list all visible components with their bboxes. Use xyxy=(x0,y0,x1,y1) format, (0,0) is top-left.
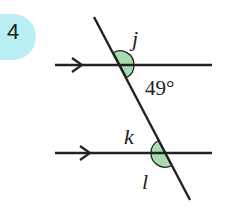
label-49-degrees: 49° xyxy=(145,76,174,100)
exercise-4-diagram: 4 j 49° k l xyxy=(0,0,225,217)
label-j: j xyxy=(129,26,138,51)
angle-diagram: j 49° k l xyxy=(0,0,225,217)
label-k: k xyxy=(124,124,135,149)
label-l: l xyxy=(142,169,148,194)
